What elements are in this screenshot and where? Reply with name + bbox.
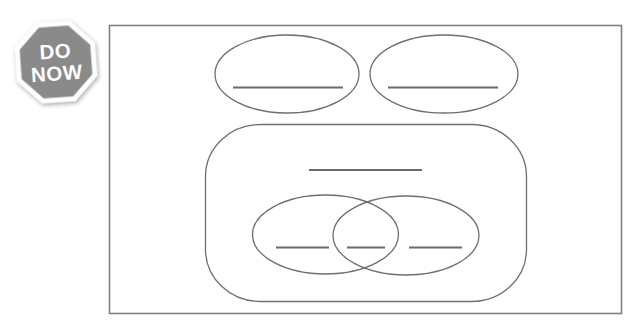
worksheet-page: DO NOW (0, 0, 636, 329)
graphic-organizer (0, 0, 636, 329)
